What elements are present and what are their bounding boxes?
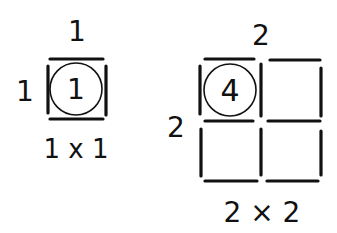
figure-2x2: 2 2 4 2 × 2 xyxy=(167,19,321,229)
top-length-label: 2 xyxy=(252,19,270,52)
caption: 1 x 1 xyxy=(44,134,109,164)
square-count-label: 1 xyxy=(67,73,85,106)
figure-1x1: 1 1 1 1 x 1 xyxy=(16,15,108,164)
top-length-label: 1 xyxy=(68,15,86,48)
side-length-label: 1 xyxy=(16,75,34,108)
side-length-label: 2 xyxy=(167,111,185,144)
matchstick-squares-diagram: 1 1 1 1 x 1 2 2 4 2 × 2 xyxy=(0,0,337,233)
square-count-label: 4 xyxy=(220,73,239,108)
caption: 2 × 2 xyxy=(224,196,301,229)
